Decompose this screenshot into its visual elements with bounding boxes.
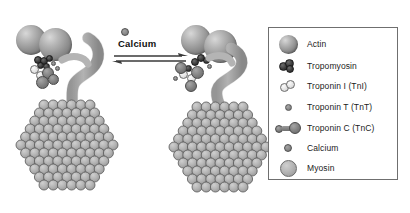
legend-item-myosin: Myosin xyxy=(269,158,399,178)
tropomyosin-icon xyxy=(269,56,307,76)
legend-item-tropomyosin: Tropomyosin xyxy=(269,56,399,76)
myosin-sphere xyxy=(220,182,230,192)
myosin-sphere xyxy=(67,180,77,190)
actin-sphere-icon xyxy=(269,34,307,54)
legend-item-troponin-c: Troponin C (TnC) xyxy=(269,118,399,138)
figure-canvas: Calcium xyxy=(0,0,410,213)
myosin-sphere xyxy=(57,180,67,190)
myosin-sphere xyxy=(238,182,248,192)
legend-label-troponin-i: Troponin I (TnI) xyxy=(307,81,367,91)
legend-label-actin: Actin xyxy=(307,39,326,49)
troponin-t-icon xyxy=(269,97,307,117)
legend-label-calcium: Calcium xyxy=(307,143,338,153)
legend-item-actin: Actin xyxy=(269,34,399,54)
myosin-sphere xyxy=(229,182,239,192)
calcium-ion-icon xyxy=(269,138,307,158)
myosin-sphere xyxy=(201,182,211,192)
myosin-sphere-icon xyxy=(269,158,307,178)
myosin-filament-cross-section xyxy=(165,92,275,202)
myosin-sphere xyxy=(39,180,49,190)
legend-item-troponin-t: Troponin T (TnT) xyxy=(269,97,399,117)
troponin-c-icon xyxy=(269,118,307,138)
legend-item-calcium: Calcium xyxy=(269,138,399,158)
legend-label-tropomyosin: Tropomyosin xyxy=(307,61,357,71)
legend-box: Actin Tropomyosin Troponin I (TnI) xyxy=(268,27,398,180)
myosin-sphere xyxy=(76,180,86,190)
myosin-filament-cross-section xyxy=(12,90,122,200)
myosin-sphere xyxy=(210,182,220,192)
legend-label-troponin-c: Troponin C (TnC) xyxy=(307,123,374,133)
myosin-sphere xyxy=(48,180,58,190)
activated-state-panel xyxy=(165,10,280,210)
legend-item-troponin-i: Troponin I (TnI) xyxy=(269,76,399,96)
myosin-sphere xyxy=(192,182,202,192)
calcium-ion-icon xyxy=(121,28,129,36)
legend-label-troponin-t: Troponin T (TnT) xyxy=(307,102,372,112)
relaxed-state-panel xyxy=(0,10,115,210)
legend-label-myosin: Myosin xyxy=(307,163,335,173)
myosin-sphere xyxy=(85,180,95,190)
troponin-i-icon xyxy=(269,76,307,96)
calcium-label: Calcium xyxy=(118,38,156,49)
